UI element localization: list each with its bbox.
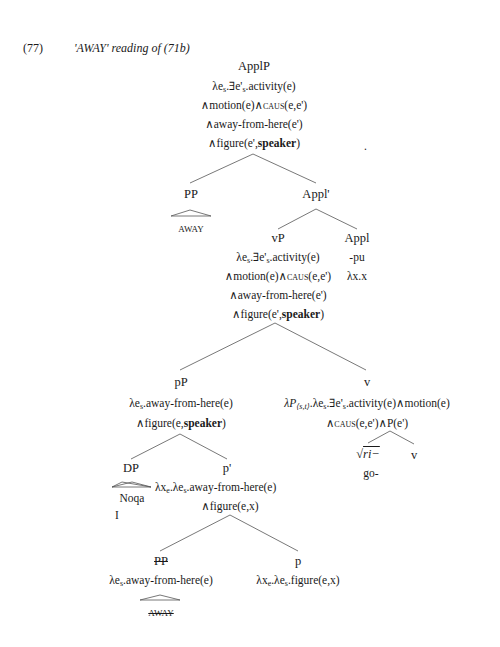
pp-low-sem: λes.away-from-here(e) bbox=[109, 573, 213, 591]
node-dp: DP bbox=[123, 461, 139, 475]
node-applbar: Appl' bbox=[302, 187, 329, 201]
node-v-top: v bbox=[364, 375, 370, 389]
node-applP: ApplP bbox=[238, 59, 270, 73]
pP-sem-1: λes.away-from-here(e) bbox=[129, 396, 233, 414]
node-v-small: v bbox=[411, 448, 417, 462]
dp-leaf: Noqa bbox=[120, 491, 145, 505]
applP-sem-1: λes.∃e's.activity(e) bbox=[212, 79, 295, 97]
vP-sem-4: ∧figure(e',speaker) bbox=[232, 307, 324, 321]
dp-gloss: I bbox=[115, 508, 119, 522]
node-pP: pP bbox=[174, 375, 187, 389]
appl-morph: -pu bbox=[349, 250, 364, 264]
applP-sem-2: ∧motion(e)∧caus(e,e') bbox=[201, 98, 307, 112]
pp-low-leaf: AWAY bbox=[148, 606, 173, 620]
node-pp-low: PP bbox=[154, 554, 168, 568]
example-caption: 'AWAY' reading of (71b) bbox=[74, 41, 190, 55]
example-number: (77) bbox=[23, 41, 43, 55]
vP-sem-1: λes.∃e's.activity(e) bbox=[236, 250, 319, 268]
p-sem: λxe.λes.figure(e,x) bbox=[256, 573, 339, 591]
vP-sem-3: ∧away-from-here(e') bbox=[229, 288, 326, 302]
node-root: √ri− bbox=[356, 447, 380, 461]
v-sem-2: ∧caus(e,e')∧P(e') bbox=[326, 416, 408, 430]
node-pbar: p' bbox=[223, 461, 232, 475]
pP-sem-2: ∧figure(e,speaker) bbox=[136, 416, 226, 430]
pp-top-leaf: AWAY bbox=[178, 222, 203, 236]
vP-sem-2: ∧motion(e)∧caus(e,e') bbox=[225, 269, 331, 283]
applP-sem-4: ∧figure(e',speaker) bbox=[208, 136, 300, 150]
node-pp-top: PP bbox=[184, 187, 198, 201]
applP-sem-3: ∧away-from-here(e') bbox=[205, 117, 302, 131]
pbar-sem-2: ∧figure(e,x) bbox=[201, 499, 258, 513]
pbar-sem-1: λxe.λes.away-from-here(e) bbox=[155, 480, 276, 498]
appl-sem: λx.x bbox=[347, 269, 367, 283]
node-appl: Appl bbox=[345, 231, 370, 245]
node-vP: vP bbox=[271, 231, 284, 245]
v-sem-1: λP⟨s,t⟩.λes.∃e's.activity(e)∧motion(e) bbox=[284, 396, 450, 414]
root-gloss: go- bbox=[363, 466, 378, 480]
stray-period: . bbox=[364, 139, 367, 153]
node-p: p bbox=[295, 554, 301, 568]
